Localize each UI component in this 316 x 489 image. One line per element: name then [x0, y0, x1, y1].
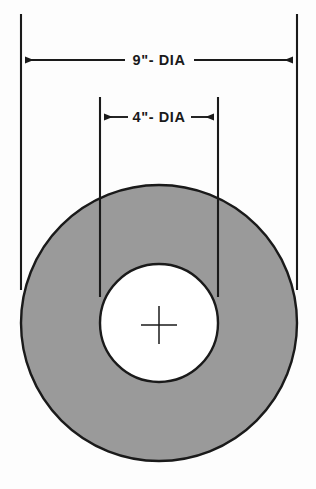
- technical-drawing-canvas: 9"- DIA 4"- DIA: [0, 0, 316, 489]
- annulus-drawing-svg: 9"- DIA 4"- DIA: [0, 0, 316, 489]
- inner-dimension-label: 4"- DIA: [133, 109, 186, 125]
- outer-dimension-label: 9"- DIA: [133, 52, 186, 68]
